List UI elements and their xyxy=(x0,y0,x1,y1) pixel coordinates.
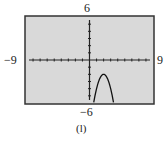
x-min-label: −9 xyxy=(4,54,17,66)
y-max-label: 6 xyxy=(84,2,90,14)
y-min-label: −6 xyxy=(80,106,93,118)
x-max-label: 9 xyxy=(157,54,163,66)
figure-caption: (l) xyxy=(76,122,86,134)
graphing-calculator-screen xyxy=(0,0,167,141)
